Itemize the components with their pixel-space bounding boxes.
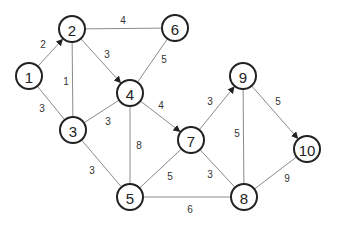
node-label: 2 <box>68 22 76 39</box>
edge-2-6 <box>85 28 161 29</box>
edge-weight-label: 3 <box>207 96 213 107</box>
node-label: 4 <box>126 86 134 103</box>
edge-weight-label: 6 <box>187 204 193 215</box>
edge-weight-label: 4 <box>120 15 126 26</box>
node-label: 3 <box>69 123 77 140</box>
node-9: 9 <box>230 63 256 89</box>
edge-2-4 <box>81 39 121 83</box>
edge-7-8 <box>200 150 235 187</box>
edge-weight-label: 1 <box>63 76 69 87</box>
node-3: 3 <box>60 117 86 143</box>
graph-canvas: 23143538435633559 12345678910 <box>0 0 337 226</box>
edge-5-7 <box>139 150 180 189</box>
node-label: 6 <box>171 21 179 38</box>
edge-weight-label: 3 <box>207 169 213 180</box>
edge-9-10 <box>252 86 298 139</box>
edge-weight-label: 3 <box>39 103 45 114</box>
edge-7-9 <box>199 87 234 130</box>
graph-diagram: 23143538435633559 12345678910 <box>0 0 337 226</box>
node-8: 8 <box>231 184 257 210</box>
edge-weight-label: 5 <box>234 128 240 139</box>
node-6: 6 <box>162 15 188 41</box>
edge-weight-label: 5 <box>167 171 173 182</box>
edge-weight-label: 4 <box>158 100 164 111</box>
edge-weight-label: 5 <box>275 96 281 107</box>
node-1: 1 <box>16 63 42 89</box>
node-label: 7 <box>187 133 195 150</box>
edge-2-3 <box>72 42 73 116</box>
edge-weight-label: 3 <box>105 116 111 127</box>
edge-3-4 <box>84 101 118 123</box>
node-2: 2 <box>59 16 85 42</box>
edge-weight-label: 3 <box>89 165 95 176</box>
edge-weight-label: 3 <box>104 49 110 60</box>
node-4: 4 <box>117 80 143 106</box>
edge-weight-label: 8 <box>136 140 142 151</box>
edge-weight-label: 9 <box>284 173 290 184</box>
node-label: 9 <box>239 69 247 86</box>
edge-labels-layer: 23143538435633559 <box>39 15 290 215</box>
node-10: 10 <box>294 136 320 162</box>
node-label: 8 <box>240 190 248 207</box>
edge-weight-label: 5 <box>161 54 167 65</box>
edge-3-5 <box>81 140 121 186</box>
node-label: 10 <box>299 142 316 159</box>
edge-weight-label: 2 <box>40 39 46 50</box>
node-label: 5 <box>126 190 134 207</box>
edge-9-8 <box>243 89 244 183</box>
node-label: 1 <box>25 69 33 86</box>
node-5: 5 <box>117 184 143 210</box>
node-7: 7 <box>178 127 204 153</box>
